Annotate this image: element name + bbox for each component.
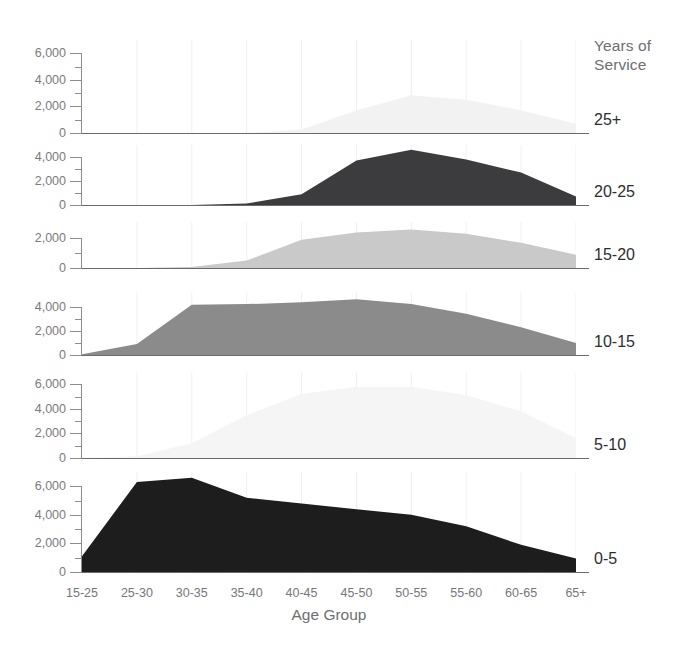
y-tick-mark [70, 331, 82, 332]
x-tick-label: 25-30 [121, 586, 153, 600]
plot-area [82, 145, 576, 205]
y-minor-tick-mark [75, 253, 82, 254]
baseline-axis [82, 572, 576, 573]
panel-20-25 [0, 145, 690, 205]
y-tick-label: 4,000 [35, 74, 66, 86]
plot-area [82, 472, 576, 572]
y-tick-mark [70, 384, 82, 385]
y-tick-label: 2,000 [35, 537, 66, 549]
y-tick-mark [70, 268, 82, 269]
area-series-25plus [82, 95, 576, 133]
y-tick-label: 6,000 [35, 47, 66, 59]
row-label-20-25: 20-25 [594, 183, 635, 201]
y-minor-tick-mark [75, 421, 82, 422]
panel-15-20 [0, 222, 690, 268]
plot-area [82, 292, 576, 355]
x-tick-label: 30-35 [176, 586, 208, 600]
x-tick-label: 15-25 [66, 586, 98, 600]
row-label-10-15: 10-15 [594, 333, 635, 351]
y-tick-mark [70, 458, 82, 459]
y-tick-mark [70, 53, 82, 54]
y-tick-mark [70, 80, 82, 81]
plot-area [82, 40, 576, 133]
x-tick-label: 50-55 [395, 586, 427, 600]
x-tick-label: 65+ [565, 586, 586, 600]
y-tick-label: 2,000 [35, 175, 66, 187]
y-tick-mark [70, 157, 82, 158]
y-tick-label: 4,000 [35, 403, 66, 415]
baseline-axis [82, 205, 576, 206]
y-minor-tick-mark [75, 169, 82, 170]
x-tick-label: 55-60 [450, 586, 482, 600]
baseline-axis [82, 458, 576, 459]
y-tick-mark [70, 181, 82, 182]
y-minor-tick-mark [75, 529, 82, 530]
y-tick-mark [70, 433, 82, 434]
row-label-dash [576, 355, 589, 356]
y-tick-label: 0 [59, 199, 66, 211]
y-tick-label: 4,000 [35, 151, 66, 163]
y-tick-label: 6,000 [35, 378, 66, 390]
baseline-axis [82, 268, 576, 269]
y-tick-mark [70, 106, 82, 107]
y-tick-label: 0 [59, 127, 66, 139]
y-minor-tick-mark [75, 120, 82, 121]
panel-0-5 [0, 472, 690, 572]
y-minor-tick-mark [75, 558, 82, 559]
plot-area [82, 372, 576, 458]
y-minor-tick-mark [75, 67, 82, 68]
y-tick-mark [70, 543, 82, 544]
y-tick-label: 2,000 [35, 232, 66, 244]
panel-10-15 [0, 292, 690, 355]
row-label-dash [576, 268, 589, 269]
x-tick-label: 45-50 [340, 586, 372, 600]
y-minor-tick-mark [75, 319, 82, 320]
y-minor-tick-mark [75, 446, 82, 447]
x-tick-label: 35-40 [231, 586, 263, 600]
row-label-15-20: 15-20 [594, 246, 635, 264]
area-series-0-5 [82, 478, 576, 572]
y-minor-tick-mark [75, 501, 82, 502]
y-tick-label: 2,000 [35, 427, 66, 439]
y-tick-label: 0 [59, 566, 66, 578]
area-series-10-15 [82, 299, 576, 355]
row-label-dash [576, 458, 589, 459]
y-tick-mark [70, 572, 82, 573]
row-label-dash [576, 205, 589, 206]
y-tick-label: 2,000 [35, 325, 66, 337]
y-minor-tick-mark [75, 193, 82, 194]
x-tick-label: 40-45 [286, 586, 318, 600]
y-tick-mark [70, 238, 82, 239]
y-tick-mark [70, 409, 82, 410]
y-tick-label: 0 [59, 452, 66, 464]
y-tick-mark [70, 486, 82, 487]
baseline-axis [82, 355, 576, 356]
baseline-axis [82, 133, 576, 134]
y-tick-label: 0 [59, 349, 66, 361]
y-tick-mark [70, 515, 82, 516]
y-tick-label: 4,000 [35, 301, 66, 313]
panel-5-10 [0, 372, 690, 458]
row-label-5-10: 5-10 [594, 436, 626, 454]
x-axis-title: Age Group [82, 606, 576, 624]
area-series-5-10 [82, 387, 576, 458]
row-label-dash [576, 572, 589, 573]
plot-area [82, 222, 576, 268]
y-tick-mark [70, 205, 82, 206]
area-series-20-25 [82, 150, 576, 205]
y-tick-mark [70, 307, 82, 308]
small-multiples-area-chart: Years of Service 15-2525-3030-3535-4040-… [0, 0, 690, 647]
row-label-dash [576, 133, 589, 134]
panel-25plus [0, 40, 690, 133]
y-tick-mark [70, 355, 82, 356]
area-series-15-20 [82, 229, 576, 268]
x-tick-label: 60-65 [505, 586, 537, 600]
y-tick-label: 0 [59, 262, 66, 274]
row-label-25plus: 25+ [594, 111, 621, 129]
y-tick-label: 4,000 [35, 509, 66, 521]
y-tick-label: 6,000 [35, 480, 66, 492]
y-minor-tick-mark [75, 93, 82, 94]
y-minor-tick-mark [75, 343, 82, 344]
row-label-0-5: 0-5 [594, 550, 617, 568]
y-tick-mark [70, 133, 82, 134]
